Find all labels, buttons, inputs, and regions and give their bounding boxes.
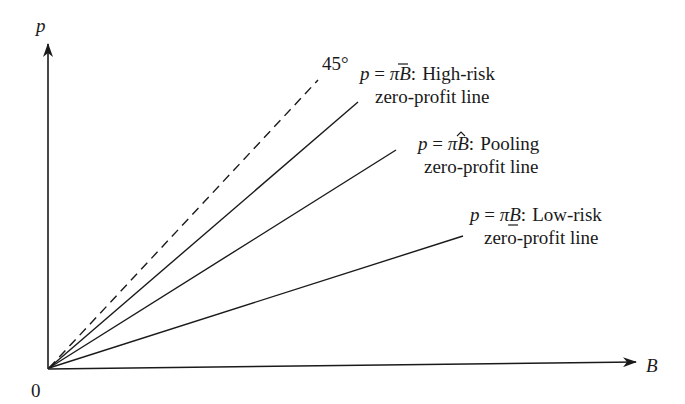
label-high-risk: p = πB:High-risk zero-profit line: [358, 63, 495, 107]
line-high-risk: [49, 102, 358, 368]
svg-text:zero-profit line: zero-profit line: [424, 156, 538, 177]
label-pooling: p = πB:Pooling zero-profit line: [416, 132, 540, 177]
origin-label: 0: [31, 380, 41, 401]
svg-text:p = πB:Low-risk: p = πB:Low-risk: [468, 204, 602, 225]
svg-text:p = πB:High-risk: p = πB:High-risk: [358, 63, 495, 84]
label-low-risk: p = πB:Low-risk zero-profit line: [468, 204, 602, 248]
svg-text:zero-profit line: zero-profit line: [484, 227, 598, 248]
line-pooling: [49, 150, 396, 368]
label-45-degree: 45°: [322, 53, 349, 74]
x-axis-label: B: [646, 355, 658, 376]
x-axis: [48, 362, 636, 369]
svg-text:zero-profit line: zero-profit line: [375, 86, 489, 107]
svg-text:p = πB:Pooling: p = πB:Pooling: [416, 133, 540, 154]
y-axis-label: p: [34, 15, 46, 36]
zero-profit-diagram: p B 0 45° p = πB:High-risk zero-profit l…: [0, 0, 685, 404]
